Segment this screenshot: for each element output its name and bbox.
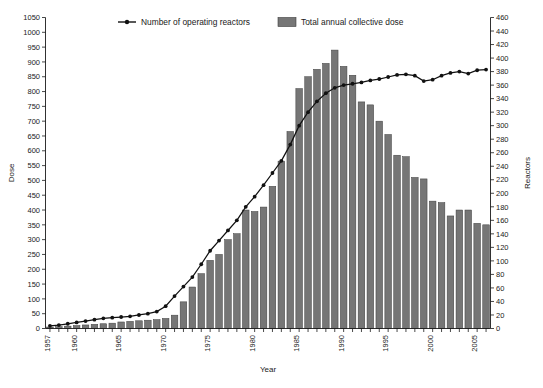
reactors-point-1990	[342, 83, 346, 87]
bar-1997	[403, 157, 410, 329]
y-left-tick-label-450: 450	[27, 191, 40, 200]
bar-1999	[420, 179, 427, 329]
y-right-tick-label-380: 380	[496, 67, 509, 76]
bar-1982	[269, 186, 276, 328]
bar-1981	[260, 207, 267, 328]
bar-1973	[189, 287, 196, 328]
reactors-point-2000	[431, 78, 435, 82]
reactors-point-1975	[208, 249, 212, 253]
bar-1975	[207, 260, 214, 328]
bar-1964	[109, 323, 116, 328]
reactors-point-1970	[164, 304, 168, 308]
reactors-point-1974	[199, 262, 203, 266]
reactors-point-1963	[101, 316, 105, 320]
bar-2003	[456, 210, 463, 328]
x-tick-label-1990: 1990	[337, 335, 346, 352]
bar-1984	[287, 132, 294, 329]
y-right-tick-label-80: 80	[496, 270, 504, 279]
y-right-tick-label-40: 40	[496, 297, 504, 306]
y-right-tick-label-440: 440	[496, 27, 509, 36]
y-left-tick-label-600: 600	[27, 146, 40, 155]
bar-1983	[278, 161, 285, 328]
bar-1967	[136, 321, 143, 329]
y-right-tick-label-100: 100	[496, 257, 509, 266]
bar-2002	[447, 216, 454, 329]
reactors-point-1978	[235, 218, 239, 222]
reactors-point-1973	[190, 275, 194, 279]
x-tick-label-1980: 1980	[248, 335, 257, 352]
bar-1966	[127, 321, 134, 328]
y-left-tick-label-500: 500	[27, 176, 40, 185]
chart-figure: Number of operating reactorsTotal annual…	[0, 0, 543, 388]
reactors-point-1959	[66, 322, 70, 326]
bar-1974	[198, 274, 205, 329]
y-right-tick-label-420: 420	[496, 40, 509, 49]
bar-1986	[305, 77, 312, 329]
bar-1990	[340, 66, 347, 328]
reactors-point-1961	[84, 319, 88, 323]
bar-1969	[153, 320, 160, 329]
reactors-point-1998	[413, 74, 417, 78]
reactors-point-1994	[377, 77, 381, 81]
bar-1970	[162, 318, 169, 328]
reactors-point-1989	[333, 86, 337, 90]
reactors-point-1965	[119, 315, 123, 319]
y-left-tick-label-950: 950	[27, 43, 40, 52]
bar-1994	[376, 121, 383, 328]
bar-1976	[216, 254, 223, 328]
reactors-point-2004	[466, 72, 470, 76]
reactors-point-1991	[351, 82, 355, 86]
y-left-tick-label-200: 200	[27, 265, 40, 274]
bar-1987	[314, 69, 321, 328]
y-left-tick-label-300: 300	[27, 235, 40, 244]
reactors-point-1980	[253, 195, 257, 199]
x-tick-label-2000: 2000	[426, 335, 435, 352]
reactors-point-1962	[93, 318, 97, 322]
reactors-point-1964	[110, 316, 114, 320]
bar-1972	[180, 302, 187, 329]
y-right-tick-label-220: 220	[496, 175, 509, 184]
y-right-tick-label-340: 340	[496, 94, 509, 103]
bar-2000	[429, 201, 436, 328]
reactors-point-1982	[271, 171, 275, 175]
reactors-point-2001	[440, 74, 444, 78]
bar-1961	[82, 325, 89, 329]
legend-marker-swatch	[278, 18, 296, 27]
reactors-point-2003	[457, 70, 461, 74]
y-right-tick-label-0: 0	[496, 324, 500, 333]
bar-2001	[438, 203, 445, 329]
y-right-tick-label-60: 60	[496, 284, 504, 293]
legend-marker-dot	[125, 20, 129, 24]
reactors-point-1997	[404, 72, 408, 76]
reactors-point-1993	[368, 78, 372, 82]
reactors-point-1987	[315, 99, 319, 103]
reactors-point-1984	[288, 143, 292, 147]
y-right-tick-label-20: 20	[496, 311, 504, 320]
y-right-tick-label-180: 180	[496, 203, 509, 212]
bar-1971	[171, 315, 178, 328]
y-right-tick-label-260: 260	[496, 148, 509, 157]
y-left-tick-label-1000: 1000	[23, 28, 40, 37]
y-left-tick-label-350: 350	[27, 221, 40, 230]
y-left-tick-label-150: 150	[27, 280, 40, 289]
y-left-tick-label-800: 800	[27, 87, 40, 96]
y-right-tick-label-200: 200	[496, 189, 509, 198]
y-right-tick-label-240: 240	[496, 162, 509, 171]
bar-1998	[412, 177, 419, 328]
bar-1989	[331, 50, 338, 328]
reactors-point-1996	[395, 73, 399, 77]
bar-1995	[385, 135, 392, 329]
reactors-point-1957	[48, 324, 52, 328]
y-left-tick-label-100: 100	[27, 295, 40, 304]
x-tick-label-1957: 1957	[43, 335, 52, 352]
y-axis-right-title: Reactors	[523, 157, 532, 189]
x-tick-label-1975: 1975	[203, 335, 212, 352]
x-tick-label-1965: 1965	[114, 335, 123, 352]
bar-2006	[483, 225, 490, 329]
reactors-point-2005	[475, 68, 479, 72]
reactors-point-1995	[386, 75, 390, 79]
reactors-point-1969	[155, 310, 159, 314]
bar-1965	[118, 322, 125, 329]
reactors-point-1992	[360, 81, 364, 85]
y-left-tick-label-650: 650	[27, 132, 40, 141]
